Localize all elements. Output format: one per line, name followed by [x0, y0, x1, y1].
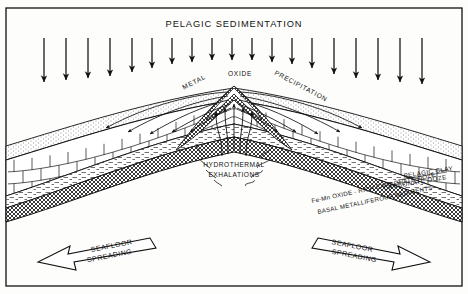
label-hydrothermal: HYDROTHERMAL: [203, 161, 264, 168]
label-oxide: OXIDE: [228, 70, 252, 77]
label-exhalations: EXHALATIONS: [208, 171, 259, 178]
figure-canvas: PELAGIC SEDIMENTATION METAL OXIDE PRECIP…: [0, 0, 468, 294]
ridge-diagram: PELAGIC SEDIMENTATION METAL OXIDE PRECIP…: [0, 0, 468, 294]
figure-title: PELAGIC SEDIMENTATION: [166, 19, 303, 29]
